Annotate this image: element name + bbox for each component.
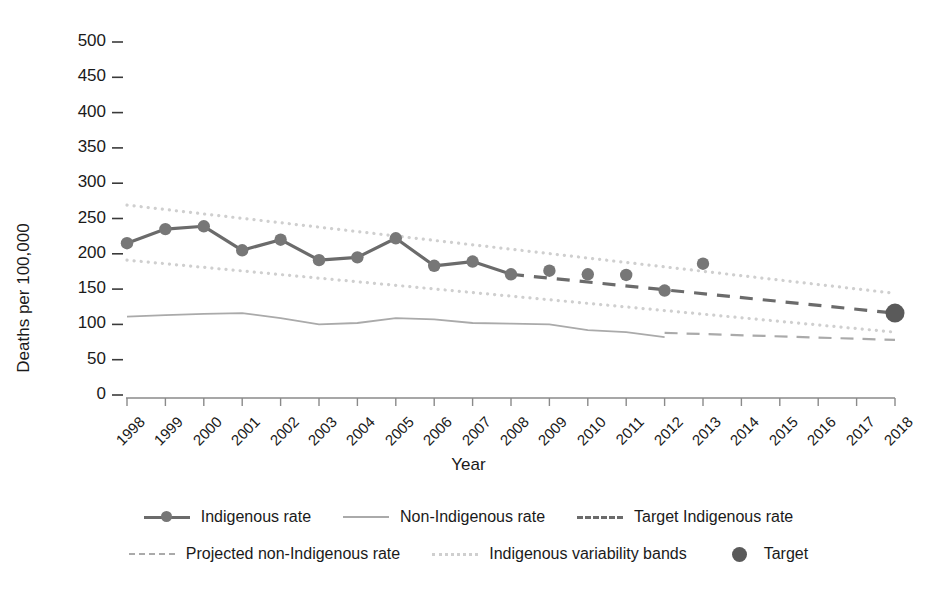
legend-row-1: Indigenous rate Non-Indigenous rate Targ… (0, 498, 937, 535)
legend-label: Non-Indigenous rate (400, 508, 545, 526)
y-tick-label: 300 (78, 172, 106, 192)
legend-label: Projected non-Indigenous rate (186, 545, 400, 563)
line-dotted-key-icon (432, 546, 478, 562)
series-target-indigenous-rate (511, 274, 895, 313)
y-axis-title: Deaths per 100,000 (14, 223, 34, 372)
series-non-indigenous-rate (127, 313, 665, 337)
data-point-indigenous-rate (390, 232, 402, 244)
data-point-target (886, 304, 905, 323)
data-point-indigenous-rate (121, 237, 133, 249)
data-point-indigenous-rate-annual (697, 257, 709, 269)
data-point-indigenous-rate-annual (543, 265, 555, 277)
y-tick-label: 250 (78, 208, 106, 228)
legend-label: Indigenous variability bands (489, 545, 686, 563)
data-point-indigenous-rate (428, 260, 440, 272)
data-point-indigenous-rate (159, 223, 171, 235)
line-solid-key-icon (343, 509, 389, 525)
data-point-indigenous-rate (466, 255, 478, 267)
legend-label: Target Indigenous rate (634, 508, 793, 526)
y-tick-label: 0 (97, 384, 106, 404)
legend-label: Indigenous rate (201, 508, 311, 526)
y-tick-label: 500 (78, 31, 106, 51)
data-point-indigenous-rate (313, 254, 325, 266)
series-projected-non-indigenous-rate (665, 333, 895, 340)
legend-item-target-indigenous-rate[interactable]: Target Indigenous rate (577, 508, 793, 526)
y-tick-label: 400 (78, 102, 106, 122)
chart-legend: Indigenous rate Non-Indigenous rate Targ… (0, 498, 937, 572)
legend-item-non-indigenous-rate[interactable]: Non-Indigenous rate (343, 508, 545, 526)
line-dashed-light-key-icon (129, 546, 175, 562)
data-point-indigenous-rate (236, 244, 248, 256)
data-point-indigenous-rate-annual (658, 284, 670, 296)
series-indigenous-rate (127, 226, 511, 274)
legend-item-projected-non-indigenous-rate[interactable]: Projected non-Indigenous rate (129, 545, 400, 563)
y-tick-label: 450 (78, 66, 106, 86)
y-tick-label: 200 (78, 243, 106, 263)
legend-item-indigenous-variability-bands[interactable]: Indigenous variability bands (432, 545, 686, 563)
y-tick-label: 350 (78, 137, 106, 157)
legend-item-target[interactable]: Target (719, 545, 808, 563)
data-point-indigenous-rate-annual (582, 268, 594, 280)
y-tick-label: 150 (78, 278, 106, 298)
data-point-indigenous-rate (274, 233, 286, 245)
y-tick-label: 100 (78, 313, 106, 333)
legend-row-2: Projected non-Indigenous rate Indigenous… (0, 535, 937, 572)
data-point-indigenous-rate (198, 220, 210, 232)
chart-container: Deaths per 100,000 Year 0501001502002503… (0, 0, 937, 597)
point-key-icon (719, 546, 753, 562)
legend-label: Target (764, 545, 808, 563)
legend-item-indigenous-rate[interactable]: Indigenous rate (144, 508, 311, 526)
data-point-indigenous-rate (351, 251, 363, 263)
y-tick-label: 50 (87, 349, 106, 369)
line-marker-key-icon (144, 509, 190, 525)
data-point-indigenous-rate-annual (620, 269, 632, 281)
line-dashed-key-icon (577, 509, 623, 525)
data-point-indigenous-rate (505, 268, 517, 280)
